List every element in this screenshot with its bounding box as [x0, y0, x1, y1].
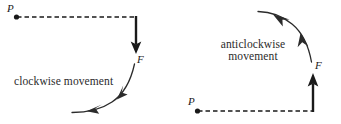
physics-moment-figure: P F clockwise movement P F anticlockwise… — [0, 0, 341, 124]
pivot-label-left: P — [7, 3, 14, 14]
anticlockwise-caption-line-1: anticlockwise — [205, 39, 301, 51]
force-label-right: F — [315, 60, 322, 71]
clockwise-motion-arc-left — [72, 64, 135, 113]
anticlockwise-movement-caption: anticlockwise movement — [205, 39, 301, 62]
clockwise-arc-arrowhead-lower-left — [87, 104, 102, 113]
clockwise-movement-caption: clockwise movement — [14, 76, 113, 88]
anticlockwise-caption-line-2: movement — [205, 51, 301, 63]
force-label-left: F — [137, 54, 144, 65]
pivot-label-right: P — [188, 96, 195, 107]
figure-vector-layer — [0, 0, 341, 124]
